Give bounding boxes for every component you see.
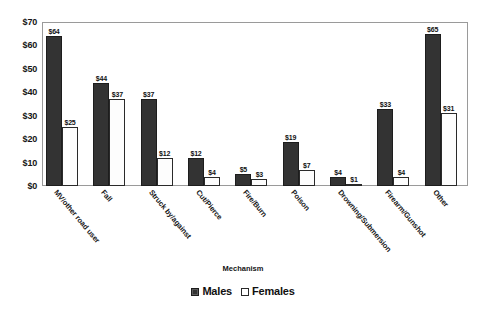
bar-value-label: $4 xyxy=(208,169,215,177)
bar-value-label: $25 xyxy=(64,119,75,127)
bar-group: $19$7 xyxy=(279,22,326,186)
bar-value-label: $1 xyxy=(350,176,357,184)
bar-females[interactable]: $12 xyxy=(157,158,173,186)
bar-males[interactable]: $44 xyxy=(93,83,109,186)
bar-value-label: $33 xyxy=(380,101,391,109)
bar-females[interactable]: $7 xyxy=(299,170,315,186)
legend-item-females[interactable]: Females xyxy=(241,286,295,297)
bar-group: $4$1 xyxy=(326,22,373,186)
bar-males[interactable]: $33 xyxy=(377,109,393,186)
bar-value-label: $64 xyxy=(48,28,59,36)
x-axis-label: Firearm/Gunshot xyxy=(383,188,428,239)
bar-females[interactable]: $4 xyxy=(204,177,220,186)
bar-males[interactable]: $4 xyxy=(330,177,346,186)
x-axis-label: Drowning/Submersion xyxy=(336,188,393,254)
x-axis-label: Struck by/against xyxy=(147,188,193,240)
bar-value-label: $4 xyxy=(334,169,341,177)
legend-label-males: Males xyxy=(202,286,232,297)
x-axis-label: Poison xyxy=(289,188,312,212)
y-axis: $70$60$50$40$30$20$10$0 xyxy=(0,0,42,186)
bar-females[interactable]: $4 xyxy=(393,177,409,186)
bar-value-label: $65 xyxy=(427,26,438,34)
bar-value-label: $5 xyxy=(240,166,247,174)
bar-females[interactable]: $31 xyxy=(441,113,457,186)
x-axis-title: Mechanism xyxy=(0,264,486,273)
x-axis-label: MV/other road user xyxy=(52,188,102,245)
chart-legend: Males Females xyxy=(0,286,486,297)
bars-layer: $64$25$44$37$37$12$12$4$5$3$19$7$4$1$33$… xyxy=(42,22,468,186)
bar-value-label: $19 xyxy=(285,134,296,142)
y-axis-tick: $30 xyxy=(23,111,37,121)
bar-group: $65$31 xyxy=(421,22,468,186)
x-axis-label: Fire/Burn xyxy=(241,188,269,219)
bar-value-label: $37 xyxy=(112,91,123,99)
bar-group: $5$3 xyxy=(231,22,278,186)
y-axis-tick: $0 xyxy=(27,181,37,191)
y-axis-tick: $70 xyxy=(23,17,37,27)
y-axis-tick: $40 xyxy=(23,87,37,97)
bar-group: $64$25 xyxy=(42,22,89,186)
bar-value-label: $37 xyxy=(143,91,154,99)
y-axis-tick: $20 xyxy=(23,134,37,144)
bar-value-label: $31 xyxy=(443,105,454,113)
bar-value-label: $12 xyxy=(190,150,201,158)
x-axis-category-labels: MV/other road userFallStruck by/againstC… xyxy=(42,186,468,262)
bar-group: $44$37 xyxy=(89,22,136,186)
y-axis-tick: $50 xyxy=(23,64,37,74)
x-axis-label: Cut/Pierce xyxy=(194,188,224,221)
y-axis-tick: $60 xyxy=(23,40,37,50)
bar-males[interactable]: $5 xyxy=(235,174,251,186)
filled-square-icon xyxy=(191,288,199,296)
bar-value-label: $44 xyxy=(96,75,107,83)
legend-item-males[interactable]: Males xyxy=(191,286,232,297)
bar-males[interactable]: $12 xyxy=(188,158,204,186)
bar-chart: $70$60$50$40$30$20$10$0 $64$25$44$37$37$… xyxy=(0,0,486,312)
bar-group: $33$4 xyxy=(373,22,420,186)
bar-value-label: $12 xyxy=(159,150,170,158)
bar-females[interactable]: $25 xyxy=(62,127,78,186)
open-square-icon xyxy=(241,288,249,296)
bar-females[interactable]: $37 xyxy=(109,99,125,186)
y-axis-tick: $10 xyxy=(23,158,37,168)
bar-group: $37$12 xyxy=(137,22,184,186)
x-axis-label: Fall xyxy=(99,188,114,203)
bar-value-label: $7 xyxy=(303,162,310,170)
bar-value-label: $4 xyxy=(398,169,405,177)
bar-females[interactable]: $3 xyxy=(251,179,267,186)
legend-label-females: Females xyxy=(252,286,295,297)
bar-males[interactable]: $19 xyxy=(283,142,299,187)
bar-males[interactable]: $64 xyxy=(46,36,62,186)
bar-group: $12$4 xyxy=(184,22,231,186)
bar-males[interactable]: $37 xyxy=(141,99,157,186)
x-axis-label: Other xyxy=(431,188,450,209)
bar-males[interactable]: $65 xyxy=(425,34,441,186)
bar-value-label: $3 xyxy=(256,171,263,179)
